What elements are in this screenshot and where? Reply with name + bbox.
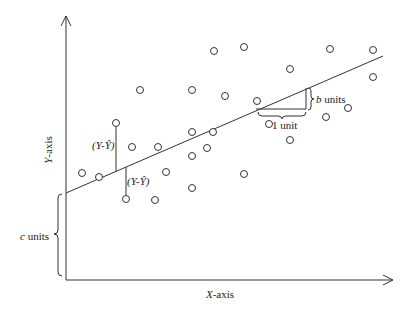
slope-triangle	[256, 88, 314, 119]
run-brace-icon	[258, 112, 306, 119]
residual-label-1: (Y-Ŷ)	[92, 139, 115, 152]
data-point	[189, 185, 196, 192]
data-point	[327, 46, 334, 53]
data-point	[152, 197, 159, 204]
data-point	[189, 153, 196, 160]
data-point	[155, 144, 162, 151]
data-point	[323, 114, 330, 121]
data-point	[254, 98, 261, 105]
regression-diagram: Y-axis X-axis (Y-Ŷ) (Y-Ŷ) 1 unit b units…	[0, 0, 412, 310]
data-point	[287, 66, 294, 73]
data-point	[129, 144, 136, 151]
data-point	[96, 174, 103, 181]
data-point	[204, 145, 211, 152]
data-point	[287, 137, 294, 144]
data-point	[163, 169, 170, 176]
residual-lines	[116, 127, 126, 195]
rise-brace-icon	[308, 88, 314, 110]
data-point	[222, 93, 229, 100]
y-axis-label: Y-axis	[42, 136, 54, 164]
data-point	[137, 87, 144, 94]
data-point	[241, 171, 248, 178]
intercept-brace-icon	[54, 194, 62, 276]
slope-rise-label: b units	[316, 93, 346, 105]
data-point	[113, 120, 120, 127]
data-point	[370, 47, 377, 54]
data-point	[241, 44, 248, 51]
data-point	[123, 196, 130, 203]
slope-run-label: 1 unit	[272, 119, 297, 131]
x-axis-label: X-axis	[205, 288, 234, 300]
intercept-label: c units	[20, 230, 49, 242]
data-point	[210, 129, 217, 136]
data-point	[79, 170, 86, 177]
data-point	[211, 48, 218, 55]
data-point	[189, 87, 196, 94]
data-point	[370, 74, 377, 81]
data-point	[189, 129, 196, 136]
data-point	[345, 105, 352, 112]
residual-label-2: (Y-Ŷ)	[127, 175, 150, 188]
